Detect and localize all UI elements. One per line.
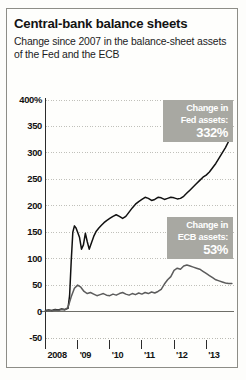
- callout-ecb-line1: Change in: [171, 220, 228, 232]
- callout-fed-line1: Change in: [167, 103, 228, 115]
- x-tick-label: '13: [208, 350, 220, 360]
- callout-ecb-value: 53%: [171, 244, 228, 256]
- callout-fed-value: 332%: [167, 127, 228, 139]
- x-tick-label: 2008: [48, 350, 67, 360]
- chart-page: Central-bank balance sheets Change since…: [0, 0, 246, 380]
- x-axis-labels: 2008'09'10'11'12'13: [0, 0, 246, 380]
- callout-fed-assets: Change in Fed assets: 332%: [163, 100, 233, 142]
- x-tick-label: '09: [80, 350, 92, 360]
- x-tick-label: '12: [176, 350, 188, 360]
- callout-ecb-assets: Change in ECB assets: 53%: [167, 217, 233, 259]
- x-tick-label: '10: [112, 350, 124, 360]
- x-tick-label: '11: [144, 350, 155, 360]
